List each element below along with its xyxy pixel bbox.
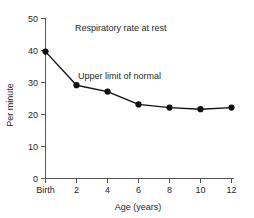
x-tick-label-12: 12 — [226, 185, 236, 195]
data-point-6 — [135, 101, 141, 107]
x-axis-title: Age (years) — [115, 202, 162, 212]
data-point-12 — [228, 105, 234, 111]
chart-title: Respiratory rate at rest — [75, 23, 167, 33]
y-axis-title: Per minute — [5, 83, 15, 127]
data-point-10 — [197, 106, 203, 112]
x-tick-label-2: 2 — [74, 185, 79, 195]
upper-limit-annotation: Upper limit of normal — [78, 71, 161, 81]
chart-container: 0 10 20 30 40 50 Birth 2 4 6 8 10 12 Age… — [0, 0, 254, 218]
y-tick-label-50: 50 — [28, 14, 38, 24]
y-axis-ticks — [41, 19, 46, 179]
y-tick-label-40: 40 — [28, 46, 38, 56]
y-tick-label-0: 0 — [33, 174, 38, 184]
data-point-birth — [42, 49, 48, 55]
x-tick-label-10: 10 — [195, 185, 205, 195]
respiratory-rate-line-chart: 0 10 20 30 40 50 Birth 2 4 6 8 10 12 Age… — [0, 0, 254, 218]
data-point-8 — [166, 105, 172, 111]
y-tick-label-30: 30 — [28, 78, 38, 88]
x-tick-label-birth: Birth — [36, 185, 55, 195]
data-point-2 — [73, 82, 79, 88]
x-tick-label-8: 8 — [167, 185, 172, 195]
y-tick-label-10: 10 — [28, 142, 38, 152]
data-point-4 — [104, 89, 110, 95]
y-tick-label-20: 20 — [28, 110, 38, 120]
x-tick-label-6: 6 — [136, 185, 141, 195]
x-tick-label-4: 4 — [105, 185, 110, 195]
x-axis-ticks — [46, 179, 232, 184]
